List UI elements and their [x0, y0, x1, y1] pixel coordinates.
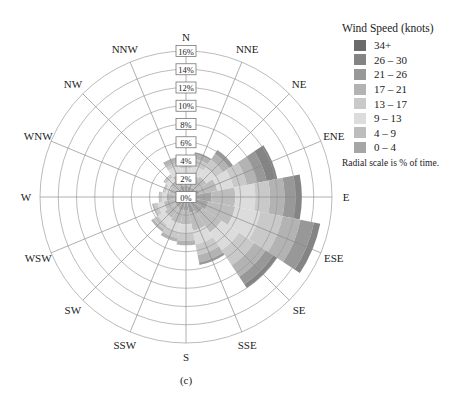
legend-entry: 9 – 13 — [354, 111, 453, 126]
legend-swatch — [354, 98, 366, 109]
direction-label-sw: SW — [65, 304, 82, 316]
direction-label-nw: NW — [64, 78, 83, 90]
legend-swatch — [354, 54, 366, 65]
radial-tick-4: 4% — [176, 155, 196, 166]
direction-label-e: E — [343, 191, 350, 203]
direction-label-ne: NE — [292, 78, 307, 90]
radial-tick-14: 14% — [176, 64, 196, 75]
legend-label: 34+ — [374, 39, 391, 51]
radial-tick-12: 12% — [176, 82, 196, 93]
svg-text:14%: 14% — [178, 65, 194, 75]
direction-label-nne: NNE — [236, 43, 259, 55]
wind-rose-chart: 0%2%4%6%8%10%12%14%16% NNNENEENEEESESESS… — [0, 0, 372, 372]
legend-entry: 13 – 17 — [354, 96, 453, 111]
svg-text:6%: 6% — [180, 138, 191, 148]
legend-entry: 34+ — [354, 38, 453, 53]
legend-title: Wind Speed (knots) — [342, 22, 453, 34]
legend-swatch — [354, 84, 366, 95]
radial-tick-2: 2% — [176, 173, 196, 184]
svg-text:12%: 12% — [178, 83, 194, 93]
legend-entry: 21 – 26 — [354, 67, 453, 82]
direction-label-ssw: SSW — [113, 339, 136, 351]
radial-tick-8: 8% — [176, 119, 196, 130]
direction-label-w: W — [21, 191, 32, 203]
legend-swatch — [354, 113, 366, 124]
legend-entry: 26 – 30 — [354, 53, 453, 68]
radial-scale-note: Radial scale is % of time. — [342, 158, 453, 168]
legend-swatch — [354, 40, 366, 51]
radial-tick-labels: 0%2%4%6%8%10%12%14%16% — [176, 46, 196, 203]
legend: Wind Speed (knots) 34+26 – 3021 – 2617 –… — [342, 22, 453, 168]
svg-text:10%: 10% — [178, 101, 194, 111]
svg-text:16%: 16% — [178, 47, 194, 57]
direction-label-nnw: NNW — [112, 43, 139, 55]
direction-label-s: S — [183, 351, 189, 363]
direction-label-n: N — [182, 31, 190, 43]
legend-label: 21 – 26 — [374, 68, 407, 80]
svg-text:2%: 2% — [180, 174, 191, 184]
svg-text:4%: 4% — [180, 156, 191, 166]
direction-label-se: SE — [293, 304, 306, 316]
svg-text:0%: 0% — [180, 193, 191, 203]
wind-rose-sectors — [151, 145, 320, 288]
direction-label-ese: ESE — [324, 252, 344, 264]
legend-label: 0 – 4 — [374, 141, 396, 153]
radial-tick-10: 10% — [176, 100, 196, 111]
legend-label: 26 – 30 — [374, 54, 407, 66]
legend-label: 4 – 9 — [374, 127, 396, 139]
grid-spoke-wnw — [51, 141, 186, 197]
grid-spoke-nw — [83, 94, 186, 197]
legend-label: 13 – 17 — [374, 98, 407, 110]
legend-entry: 17 – 21 — [354, 82, 453, 97]
legend-entries: 34+26 – 3021 – 2617 – 2113 – 179 – 134 –… — [342, 38, 453, 155]
legend-swatch — [354, 69, 366, 80]
legend-swatch — [354, 142, 366, 153]
legend-label: 17 – 21 — [374, 83, 407, 95]
direction-label-wsw: WSW — [25, 252, 53, 264]
radial-tick-0: 0% — [176, 192, 196, 203]
legend-entry: 4 – 9 — [354, 126, 453, 141]
legend-label: 9 – 13 — [374, 112, 402, 124]
radial-tick-16: 16% — [176, 46, 196, 57]
direction-label-sse: SSE — [238, 339, 257, 351]
radial-tick-6: 6% — [176, 137, 196, 148]
direction-label-wnw: WNW — [24, 130, 53, 142]
figure-caption: (c) — [0, 374, 372, 386]
grid-spoke-sw — [83, 197, 186, 300]
legend-entry: 0 – 4 — [354, 140, 453, 155]
svg-text:8%: 8% — [180, 120, 191, 130]
legend-swatch — [354, 127, 366, 138]
